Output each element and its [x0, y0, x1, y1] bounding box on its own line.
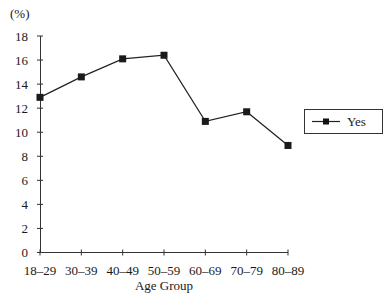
y-axis-label: (%) — [10, 6, 30, 21]
y-tick-label: 0 — [22, 245, 29, 260]
y-tick-label: 8 — [22, 149, 29, 164]
legend-label: Yes — [347, 114, 366, 129]
y-tick-label: 10 — [15, 125, 28, 140]
y-tick-label: 2 — [22, 221, 29, 236]
y-axis: 024681012141618 — [15, 29, 43, 261]
x-tick-label: 80–89 — [272, 263, 305, 278]
y-tick-label: 14 — [15, 77, 29, 92]
data-point-square-icon — [285, 142, 292, 149]
x-tick-label: 60–69 — [189, 263, 222, 278]
x-tick-label: 18–29 — [24, 263, 57, 278]
data-point-square-icon — [243, 108, 250, 115]
y-tick-label: 12 — [15, 101, 28, 116]
y-tick-label: 16 — [15, 53, 29, 68]
legend: Yes — [305, 110, 383, 134]
data-point-square-icon — [78, 73, 85, 80]
y-tick-label: 6 — [22, 173, 29, 188]
line-chart: (%) 024681012141618 18–2930–3940–4950–59… — [0, 0, 389, 306]
y-tick-label: 4 — [22, 197, 29, 212]
data-point-square-icon — [37, 94, 44, 101]
x-axis-label: Age Group — [135, 278, 193, 293]
y-tick-label: 18 — [15, 29, 28, 44]
x-tick-label: 40–49 — [106, 263, 139, 278]
x-tick-label: 50–59 — [148, 263, 181, 278]
x-axis: 18–2930–3940–4950–5960–6970–7980–89 — [24, 250, 305, 279]
x-tick-label: 30–39 — [65, 263, 98, 278]
data-point-square-icon — [161, 52, 168, 59]
data-point-square-icon — [202, 118, 209, 125]
legend-square-marker-icon — [323, 119, 329, 125]
series-yes — [37, 52, 292, 149]
x-tick-label: 70–79 — [230, 263, 263, 278]
data-point-square-icon — [119, 55, 126, 62]
